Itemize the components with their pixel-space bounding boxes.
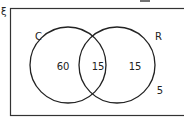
set-r-circle <box>79 27 155 103</box>
c-only-count: 60 <box>57 61 70 72</box>
r-only-count: 15 <box>129 61 142 72</box>
venn-diagram: ξ C R 60 15 15 5 <box>0 0 184 119</box>
set-r-label: R <box>155 31 162 42</box>
set-c-label: C <box>35 31 42 42</box>
outside-count: 5 <box>157 85 163 96</box>
intersection-count: 15 <box>92 61 105 72</box>
universal-set-symbol: ξ <box>1 6 7 17</box>
